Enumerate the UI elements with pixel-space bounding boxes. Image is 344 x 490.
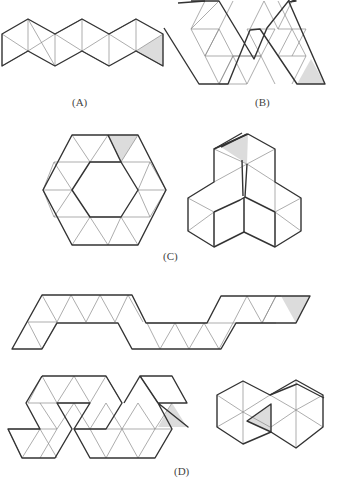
- net-a: [2, 19, 163, 66]
- net-d-long: [12, 295, 310, 349]
- shaded-face-d-long: [281, 296, 310, 323]
- shaded-face-c: [108, 135, 138, 162]
- label-d: (D): [174, 465, 189, 477]
- shaded-face-b: [297, 59, 325, 84]
- shaded-face-a: [136, 34, 163, 66]
- label-c: (C): [163, 250, 178, 262]
- net-b: [164, 0, 325, 84]
- shaded-face-c-folded: [221, 134, 248, 164]
- net-d-compact: [8, 376, 188, 458]
- label-a: (A): [72, 96, 87, 108]
- figure-canvas: [0, 0, 344, 490]
- label-b: (B): [255, 96, 270, 108]
- net-c: [43, 135, 166, 245]
- folded-d: [217, 380, 324, 448]
- folded-c: [188, 133, 301, 247]
